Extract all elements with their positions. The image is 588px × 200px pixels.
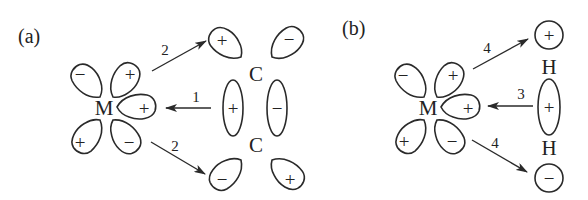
lobe-sign: + [463, 98, 474, 119]
hydrogen-atom-label: H [541, 136, 556, 160]
lobe-sign: + [544, 25, 555, 46]
arrow-back-donation-top [473, 39, 528, 69]
metal-atom-label: M [95, 96, 114, 120]
lobe-sign: − [544, 168, 555, 189]
alkene-orbitals: + − C + − C − + [204, 22, 309, 196]
lobe-sign: + [544, 97, 555, 118]
lobe-sign: + [75, 132, 86, 153]
lobe-sign: − [217, 169, 228, 190]
carbon-atom-label: C [249, 133, 263, 157]
dihydrogen-orbitals: + H + H − [535, 21, 563, 192]
lobe-sign: + [399, 131, 410, 152]
lobe-sign: − [284, 29, 295, 50]
arrow-label: 2 [171, 138, 179, 154]
lobe-sign: − [398, 65, 409, 86]
arrow-back-donation-top [152, 41, 206, 71]
panel-b: (b) M − + + + − 4 3 [342, 17, 563, 192]
lobe-sign: + [139, 98, 150, 119]
panel-b-label: (b) [342, 17, 365, 40]
lobe-sign: + [448, 65, 459, 86]
lobe-sign: − [75, 64, 86, 85]
carbon-atom-label: C [249, 62, 263, 86]
arrow-label: 2 [161, 42, 169, 58]
hydrogen-atom-label: H [541, 55, 556, 79]
lobe-sign: − [124, 132, 135, 153]
arrow-label: 3 [517, 86, 525, 102]
panel-a: (a) M − + + + [18, 22, 309, 196]
arrow-label: 4 [483, 40, 491, 56]
arrow-label: 4 [491, 135, 499, 151]
arrow-back-donation-bottom [472, 140, 527, 172]
orbital-interaction-diagram: (a) M − + + + [0, 0, 588, 200]
arrow-label: 1 [192, 89, 200, 105]
panel-a-label: (a) [18, 25, 40, 48]
lobe-sign: + [217, 30, 228, 51]
lobe-sign: − [272, 98, 283, 119]
lobe-sign: + [228, 98, 239, 119]
lobe-sign: − [447, 131, 458, 152]
lobe-sign: + [285, 169, 296, 190]
lobe-sign: + [125, 64, 136, 85]
metal-atom-label: M [419, 96, 438, 120]
